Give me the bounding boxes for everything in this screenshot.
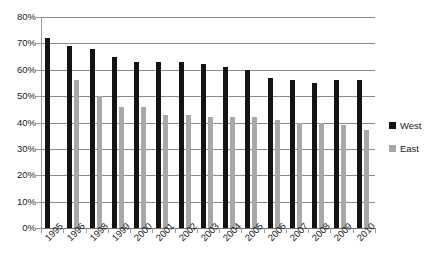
bar-west (290, 80, 295, 228)
bar-east (341, 125, 346, 228)
bar-west (357, 80, 362, 228)
bar-group (175, 17, 197, 228)
bar-group (308, 17, 330, 228)
legend-swatch-icon (389, 122, 396, 129)
bar-series-group (41, 17, 375, 228)
bar-east (208, 117, 213, 228)
y-axis-tick-label: 50% (0, 91, 36, 100)
bar-east (230, 117, 235, 228)
legend-label: West (400, 121, 421, 130)
bar-west (245, 70, 250, 228)
bar-east (74, 80, 79, 228)
bar-group (130, 17, 152, 228)
bar-group (241, 17, 263, 228)
bar-group (152, 17, 174, 228)
bar-group (219, 17, 241, 228)
bar-east (186, 115, 191, 228)
y-axis-tick-label: 20% (0, 170, 36, 179)
chart-legend: WestEast (389, 118, 421, 164)
bar-group (41, 17, 63, 228)
y-axis-tick-label: 0% (0, 223, 36, 232)
bar-east (163, 115, 168, 228)
bar-east (252, 117, 257, 228)
bar-west (179, 62, 184, 228)
bar-group (86, 17, 108, 228)
bar-east (119, 107, 124, 228)
bar-west (223, 67, 228, 228)
legend-swatch-icon (389, 145, 396, 152)
y-axis-tick-label: 80% (0, 12, 36, 21)
bar-west (334, 80, 339, 228)
y-axis-tick-label: 70% (0, 38, 36, 47)
x-axis-tick-mark (41, 228, 42, 233)
legend-label: East (400, 144, 419, 153)
bar-group (353, 17, 375, 228)
bar-group (63, 17, 85, 228)
bar-east (275, 120, 280, 228)
y-axis-tick-label: 60% (0, 65, 36, 74)
bar-west (45, 38, 50, 228)
bar-group (330, 17, 352, 228)
bar-east (141, 107, 146, 228)
bar-east (297, 123, 302, 229)
bar-group (286, 17, 308, 228)
bar-group (197, 17, 219, 228)
bar-east (364, 130, 369, 228)
bar-west (134, 62, 139, 228)
bar-west (156, 62, 161, 228)
y-axis-tick-label: 40% (0, 118, 36, 127)
bar-west (312, 83, 317, 228)
y-axis-tick-label: 10% (0, 197, 36, 206)
y-axis-tick-label: 30% (0, 144, 36, 153)
legend-item-west: West (389, 118, 421, 133)
plot-area (41, 17, 375, 228)
bar-chart: 0%10%20%30%40%50%60%70%80% 1995199619981… (0, 0, 443, 275)
bar-east (97, 96, 102, 228)
bar-group (108, 17, 130, 228)
bar-west (268, 78, 273, 228)
bar-group (264, 17, 286, 228)
bar-east (319, 123, 324, 229)
bar-west (112, 57, 117, 228)
bar-west (67, 46, 72, 228)
bar-west (201, 64, 206, 228)
bar-west (90, 49, 95, 228)
legend-item-east: East (389, 141, 421, 156)
